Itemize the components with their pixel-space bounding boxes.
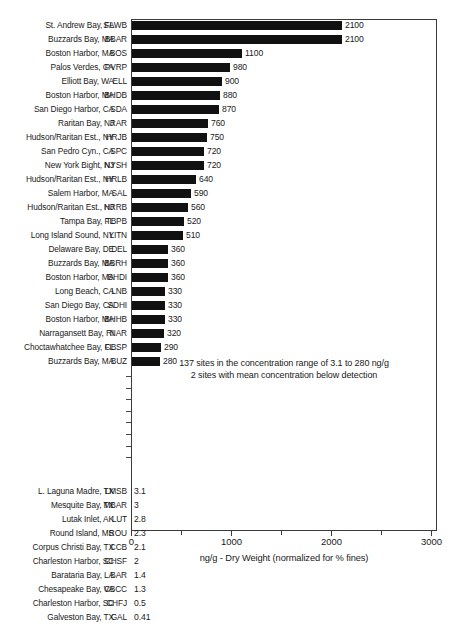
bar-value-label: 360 [171, 242, 185, 256]
bar-value-label: 320 [167, 326, 181, 340]
bar [132, 175, 196, 184]
bar-value-label: 330 [168, 298, 182, 312]
site-code-label: SAL [88, 186, 127, 200]
site-code-label: BUZ [88, 354, 127, 368]
bar [132, 245, 168, 254]
bar-value-label: 3.1 [134, 484, 146, 498]
bar [132, 49, 242, 58]
chart-annotation: 137 sites in the concentration range of … [131, 358, 437, 381]
site-code-label: RAR [88, 116, 127, 130]
site-code-label: CHSF [88, 554, 127, 568]
bar-value-label: 2.8 [134, 512, 146, 526]
bar-row: Buzzards Bay, MABBAR2100 [0, 32, 456, 46]
bar-value-label: 0.5 [134, 596, 146, 610]
bar [132, 35, 342, 44]
bar [132, 91, 220, 100]
bar-value-label: 510 [186, 228, 200, 242]
bar [132, 343, 161, 352]
site-code-label: ELL [88, 74, 127, 88]
axis-break-tick [126, 457, 131, 458]
axis-break-tick [126, 388, 131, 389]
bar-row: Delaware Bay, DEDEL360 [0, 242, 456, 256]
bar [132, 329, 164, 338]
site-code-label: NAR [88, 326, 127, 340]
axis-break-tick [126, 446, 131, 447]
bar [132, 259, 168, 268]
bar-row: Narragansett Bay, RINAR320 [0, 326, 456, 340]
bar [132, 105, 219, 114]
bar-row: Long Beach, CALNB330 [0, 284, 456, 298]
bar-row: Boston Harbor, MABOS1100 [0, 46, 456, 60]
bar-value-label: 640 [199, 172, 213, 186]
bar-row: Tampa Bay, FLTBPB520 [0, 214, 456, 228]
bar [132, 301, 165, 310]
bar-value-label: 590 [194, 186, 208, 200]
site-code-label: DEL [88, 242, 127, 256]
bar-value-label: 560 [191, 200, 205, 214]
x-tick-label: 3000 [421, 536, 442, 547]
bar-value-label: 720 [207, 158, 221, 172]
bar [132, 315, 165, 324]
axis-break-tick [126, 411, 131, 412]
bar-row: Hudson/Raritan Est., NYHRJB750 [0, 130, 456, 144]
axis-break-tick [126, 422, 131, 423]
bar-row: Chesapeake Bay, VACBCC1.3 [0, 582, 456, 596]
bar-value-label: 2100 [345, 32, 364, 46]
site-code-label: BHHB [88, 312, 127, 326]
site-code-label: PVRP [88, 60, 127, 74]
bar-row: Salem Harbor, MASAL590 [0, 186, 456, 200]
bar-value-label: 750 [210, 130, 224, 144]
bar-row: Hudson/Raritan Est., NYHRLB640 [0, 172, 456, 186]
bar [132, 273, 168, 282]
bar-value-label: 900 [225, 74, 239, 88]
x-axis-title: ng/g - Dry Weight (normalized for % fine… [131, 553, 437, 563]
bar-value-label: 2100 [345, 18, 364, 32]
bar-row: Elliott Bay, WAELL900 [0, 74, 456, 88]
bar-row: Barataria Bay, LABAR1.4 [0, 568, 456, 582]
bar-value-label: 0.41 [134, 610, 150, 624]
bar-row: Mesquite Bay, TXMBAR3 [0, 498, 456, 512]
site-code-label: HRLB [88, 172, 127, 186]
bar-row: Choctawhatchee Bay, FLCBSP290 [0, 340, 456, 354]
bar-row: Long Island Sound, NYLITN510 [0, 228, 456, 242]
bar-value-label: 330 [168, 312, 182, 326]
bar-row: Charleston Harbor, SCCHFJ0.5 [0, 596, 456, 610]
x-tick-label: 1000 [221, 536, 242, 547]
bar-value-label: 980 [233, 60, 247, 74]
site-code-label: NYSH [88, 158, 127, 172]
bar-row: Boston Harbor, MABHDI360 [0, 270, 456, 284]
bar-value-label: 290 [164, 340, 178, 354]
annotation-line-2: 2 sites with mean concentration below de… [131, 370, 437, 382]
site-code-label: HRRB [88, 200, 127, 214]
bar-value-label: 520 [187, 214, 201, 228]
bar [132, 287, 165, 296]
bar-value-label: 330 [168, 284, 182, 298]
bar-row: Lutak Inlet, AKLUT2.8 [0, 512, 456, 526]
bar [132, 161, 204, 170]
bar-row: Buzzards Bay, MABBRH360 [0, 256, 456, 270]
bar [132, 217, 184, 226]
bar [132, 203, 188, 212]
bar-row: Boston Harbor, MABHDB880 [0, 88, 456, 102]
x-tick-minor [381, 531, 382, 535]
bar-row: Raritan Bay, NJRAR760 [0, 116, 456, 130]
bar [132, 21, 342, 30]
bar-row: Boston Harbor, MABHHB330 [0, 312, 456, 326]
bar [132, 147, 204, 156]
bar [132, 119, 208, 128]
bar-row: L. Laguna Madre, TXLMSB3.1 [0, 484, 456, 498]
site-code-label: LMSB [88, 484, 127, 498]
site-code-label: LUT [88, 512, 127, 526]
bar-value-label: 760 [211, 116, 225, 130]
axis-break-tick [126, 434, 131, 435]
site-code-label: BAR [88, 568, 127, 582]
site-code-label: BOS [88, 46, 127, 60]
bar-value-label: 1100 [245, 46, 263, 60]
bar-value-label: 880 [223, 88, 237, 102]
bar-row: New York Bight, NJNYSH720 [0, 158, 456, 172]
bar [132, 133, 207, 142]
site-code-label: BBAR [88, 32, 127, 46]
x-tick-minor [181, 531, 182, 535]
site-code-label: CBSP [88, 340, 127, 354]
bar [132, 63, 230, 72]
